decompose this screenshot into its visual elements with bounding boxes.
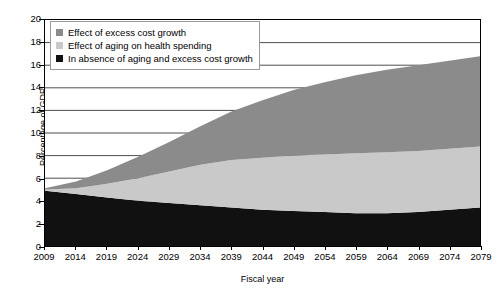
legend-item[interactable]: Effect of excess cost growth [56,26,253,39]
legend-item-label: Effect of aging on health spending [68,40,212,51]
x-tick-label: 2034 [189,251,210,262]
y-tick-label: 20 [5,14,41,24]
x-tick-label: 2024 [127,251,148,262]
x-tick-label: 2074 [439,251,460,262]
x-tick-mark [169,246,170,250]
x-tick-label: 2019 [96,251,117,262]
legend-swatch-icon [56,55,63,62]
legend-item[interactable]: In absence of aging and excess cost grow… [56,52,253,65]
x-tick-mark [481,246,482,250]
x-tick-mark [231,246,232,250]
legend-item-label: Effect of excess cost growth [68,27,186,38]
y-tick-label: 16 [5,60,41,70]
chart-legend: Effect of excess cost growthEffect of ag… [50,21,260,70]
x-tick-mark [44,246,45,250]
x-tick-mark [138,246,139,250]
x-tick-label: 2049 [283,251,304,262]
y-tick-label: 14 [5,82,41,92]
x-tick-mark [294,246,295,250]
x-axis-title: Fiscal year [44,274,481,284]
x-tick-mark [263,246,264,250]
x-tick-mark [419,246,420,250]
x-tick-mark [450,246,451,250]
y-tick-label: 10 [5,128,41,138]
x-tick-mark [200,246,201,250]
y-tick-label: 8 [5,151,41,161]
x-tick-label: 2064 [377,251,398,262]
x-tick-label: 2039 [221,251,242,262]
x-tick-label: 2079 [470,251,491,262]
chart-figure: Percentage of GDP 02468101214161820 2009… [0,0,497,294]
x-tick-mark [356,246,357,250]
y-axis-ticks: 02468101214161820 [0,19,41,247]
x-axis-ticks: 2009201420192024202920342039204420492054… [44,250,481,266]
legend-swatch-icon [56,42,63,49]
x-tick-label: 2054 [314,251,335,262]
x-tick-label: 2014 [65,251,86,262]
x-tick-mark [106,246,107,250]
x-tick-mark [387,246,388,250]
y-tick-label: 2 [5,219,41,229]
x-tick-mark [325,246,326,250]
x-tick-label: 2059 [346,251,367,262]
x-tick-label: 2044 [252,251,273,262]
legend-swatch-icon [56,29,63,36]
legend-item[interactable]: Effect of aging on health spending [56,39,253,52]
legend-item-label: In absence of aging and excess cost grow… [68,53,253,64]
x-tick-label: 2029 [158,251,179,262]
y-tick-label: 12 [5,105,41,115]
y-tick-label: 4 [5,196,41,206]
x-tick-label: 2069 [408,251,429,262]
y-tick-label: 6 [5,174,41,184]
x-tick-mark [75,246,76,250]
y-tick-label: 18 [5,37,41,47]
x-tick-label: 2009 [33,251,54,262]
